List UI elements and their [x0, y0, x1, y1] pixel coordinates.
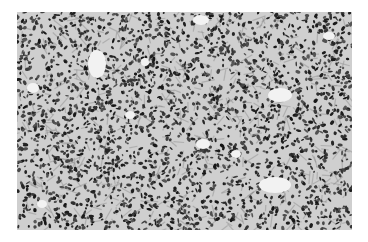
- tissue-texture: [17, 12, 352, 230]
- histology-micrograph: [17, 12, 352, 230]
